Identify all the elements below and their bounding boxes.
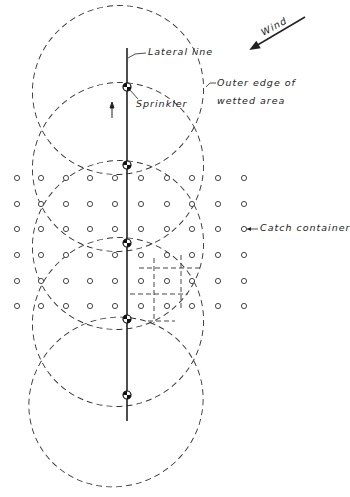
catch-container-icon [14, 201, 19, 206]
catch-container-icon [63, 252, 68, 257]
catch-container-icon [138, 175, 143, 180]
catch-container-icon [241, 252, 246, 257]
wetted-area-outline [3, 52, 234, 281]
wetted-area-outline [3, 130, 234, 359]
catch-leader-arrowhead [247, 227, 251, 231]
catch-container-icon [189, 175, 194, 180]
catch-container-icon [87, 226, 92, 231]
sprinkler-icon [123, 239, 131, 247]
catch-container-icon [63, 201, 68, 206]
catch-container-icon [189, 278, 194, 283]
catch-container-icon [138, 252, 143, 257]
catch-container-icon [112, 175, 117, 180]
catch-container-icon [87, 252, 92, 257]
catch-container-icon [138, 303, 143, 308]
catch-container-icon [112, 252, 117, 257]
wetted-area-outline [0, 287, 233, 497]
catch-container-icon [189, 303, 194, 308]
sprinkler-label: Sprinkler [136, 98, 188, 109]
sprinkler-icon [123, 83, 131, 91]
wind-label: Wind [259, 15, 289, 38]
catch-container-icon [164, 252, 169, 257]
catch-container-icon [215, 201, 220, 206]
catch-container-icon [215, 175, 220, 180]
catch-container-icon [14, 303, 19, 308]
lateral-line-label: Lateral line [148, 46, 213, 57]
sprinkler-icon [123, 391, 131, 399]
catch-container-icon [241, 175, 246, 180]
catch-container-icon [38, 278, 43, 283]
catch-container-icon [112, 278, 117, 283]
catch-container-icon [138, 226, 143, 231]
outer-edge-label-line2: wetted area [217, 95, 285, 106]
catch-container-icon [215, 303, 220, 308]
catch-container-icon [112, 303, 117, 308]
catch-container-icon [241, 303, 246, 308]
catch-container-label: Catch container [260, 222, 350, 233]
catch-container-icon [215, 226, 220, 231]
outer-edge-label-line1: Outer edge of [217, 77, 296, 88]
catch-container-icon [241, 201, 246, 206]
catch-container-icon [215, 252, 220, 257]
catch-container-icon [189, 226, 194, 231]
catch-container-icon [38, 201, 43, 206]
wetted-area-outlines [0, 0, 233, 497]
catch-container-icon [63, 278, 68, 283]
catch-container-icon [63, 175, 68, 180]
catch-container-icon [63, 303, 68, 308]
catch-container-icon [241, 278, 246, 283]
catch-container-icon [164, 201, 169, 206]
sprinkler-icon [123, 161, 131, 169]
catch-container-icon [164, 278, 169, 283]
catch-container-icon [14, 278, 19, 283]
catch-container-icon [112, 201, 117, 206]
catch-container-icon [189, 252, 194, 257]
catch-container-icon [164, 226, 169, 231]
catch-container-icon [38, 303, 43, 308]
lateral-line-leader [128, 53, 146, 58]
catch-container-icon [164, 303, 169, 308]
up-arrow-icon [110, 102, 114, 118]
catch-container-icon [189, 201, 194, 206]
catch-container-icon [87, 201, 92, 206]
catch-container-icon [87, 278, 92, 283]
catch-container-icon [241, 226, 246, 231]
catch-container-icon [87, 303, 92, 308]
catch-container-icon [38, 252, 43, 257]
outer-edge-leader [206, 83, 216, 87]
catch-container-icon [112, 226, 117, 231]
catch-container-icon [38, 175, 43, 180]
catch-container-icon [164, 175, 169, 180]
wetted-area-outline [3, 0, 234, 205]
catch-container-icon [138, 278, 143, 283]
catch-container-icon [138, 201, 143, 206]
catch-container-icon [14, 175, 19, 180]
sprinkler-icon [123, 315, 131, 323]
catch-container-icon [38, 226, 43, 231]
sample-area-dashed-lines [130, 255, 200, 323]
wetted-area-outline [3, 207, 234, 436]
catch-container-icon [63, 226, 68, 231]
catch-container-icon [215, 278, 220, 283]
catch-container-icon [87, 175, 92, 180]
catch-container-icon [14, 252, 19, 257]
catch-container-icon [14, 226, 19, 231]
